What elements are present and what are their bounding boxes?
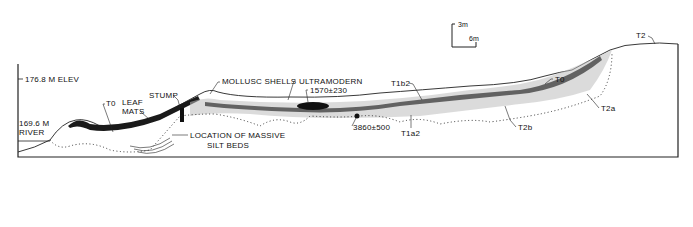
river-label: RIVER <box>19 128 44 137</box>
scale-vertical-label: 3m <box>458 21 468 28</box>
t2-label: T2 <box>636 31 646 40</box>
t1a2-label: T1a2 <box>401 129 420 138</box>
t2a-label: T2a <box>601 104 616 113</box>
stump-marker <box>180 108 184 122</box>
t0-right-label: T0 <box>555 75 565 84</box>
elevation-label: 176.8 M ELEV <box>25 75 79 84</box>
frame <box>18 44 678 157</box>
t1b2-label: T1b2 <box>391 79 410 88</box>
ground-surface-line <box>18 43 678 152</box>
river-elevation-label: 169.6 M <box>19 119 49 128</box>
silt-bed-line <box>130 138 170 148</box>
ultramodern-lens <box>297 102 329 110</box>
t2b-label: T2b <box>518 123 533 132</box>
leader-line <box>306 90 308 102</box>
date-3860-label: 3860±500 <box>353 123 390 132</box>
date-1570-label: 1570±230 <box>310 86 347 95</box>
silt-bed-line <box>134 141 172 151</box>
mats-label: MATS <box>122 107 144 116</box>
cross-section-figure: 3m 6m 176.8 M ELEV 169.6 M RIVER T0 LEAF… <box>0 0 693 227</box>
ultramodern-label: ULTRAMODERN <box>299 77 362 86</box>
leader-line <box>587 94 599 108</box>
t0-left-label: T0 <box>106 99 116 108</box>
scale-horizontal-label: 6m <box>469 35 479 42</box>
leaf-label: LEAF <box>122 98 143 107</box>
leader-line <box>505 106 516 127</box>
location-massive-label: LOCATION OF MASSIVE <box>190 131 285 140</box>
silt-beds-label: SILT BEDS <box>207 141 249 150</box>
mollusc-shells-label: MOLLUSC SHELLS <box>222 77 296 86</box>
